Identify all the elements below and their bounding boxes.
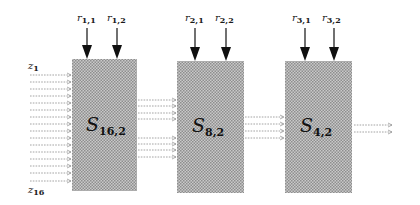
cascade-diagram: z1 z16 S16,2 r1,1 r1,2 xyxy=(0,0,420,205)
stage-2: S8,2 xyxy=(177,61,244,193)
control-label-r32: r3,2 xyxy=(322,12,341,25)
stage-3-controls: r3,1 r3,2 xyxy=(292,12,341,61)
input-label-first: z1 xyxy=(27,60,39,73)
control-label-r22: r2,2 xyxy=(215,12,234,25)
arrow-down-icon xyxy=(329,47,339,61)
stage-3: S4,2 xyxy=(285,61,352,193)
stage-1-controls: r1,1 r1,2 xyxy=(77,12,126,59)
output-lines xyxy=(354,125,392,132)
input-lines xyxy=(30,75,71,181)
stage-1: S16,2 xyxy=(72,59,137,191)
control-label-r11: r1,1 xyxy=(77,12,96,25)
control-label-r31: r3,1 xyxy=(292,12,311,25)
arrow-down-icon xyxy=(82,45,92,59)
arrow-down-icon xyxy=(190,47,200,61)
control-label-r21: r2,1 xyxy=(185,12,204,25)
arrow-down-icon xyxy=(300,47,310,61)
input-label-last: z16 xyxy=(27,184,45,197)
stage2-to-stage3-lines xyxy=(245,117,284,138)
stage1-to-stage2-lines xyxy=(138,100,176,157)
control-label-r12: r1,2 xyxy=(107,12,126,25)
stage-2-controls: r2,1 r2,2 xyxy=(185,12,234,61)
arrow-down-icon xyxy=(112,45,122,59)
arrow-down-icon xyxy=(221,47,231,61)
